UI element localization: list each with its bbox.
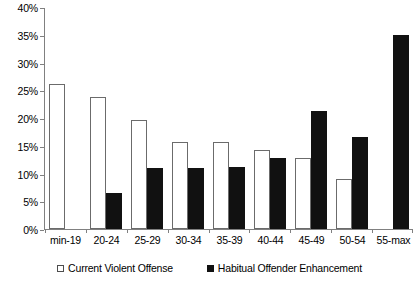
x-axis-tick-label: 40-44 xyxy=(250,234,291,247)
bar xyxy=(106,193,122,229)
x-axis-line xyxy=(44,229,413,230)
y-axis-tick-mark xyxy=(40,119,44,120)
bar xyxy=(295,158,311,229)
x-axis-tick-mark xyxy=(86,229,87,233)
bar xyxy=(213,142,229,229)
bar xyxy=(172,142,188,229)
legend-label: Current Violent Offense xyxy=(68,262,173,275)
x-axis-tick-mark xyxy=(372,229,373,233)
y-axis-tick-mark xyxy=(40,64,44,65)
plot-area: 0%5%10%15%20%25%30%35%40% xyxy=(44,8,413,230)
bar xyxy=(254,150,270,229)
x-axis-labels: min-1920-2425-2930-3435-3940-4445-4950-5… xyxy=(45,234,414,247)
x-axis-tick-mark xyxy=(45,229,46,233)
x-axis-tick-mark xyxy=(290,229,291,233)
x-axis-tick-mark xyxy=(412,229,413,233)
y-axis-tick-label: 10% xyxy=(18,169,38,180)
bar-group xyxy=(331,8,372,229)
bar-group xyxy=(249,8,290,229)
legend-entry-current-violent-offense: Current Violent Offense xyxy=(57,262,173,275)
bar-groups xyxy=(45,8,413,229)
legend-swatch-white-square-icon xyxy=(57,265,64,272)
x-axis-tick-label: min-19 xyxy=(45,234,86,247)
x-axis-tick-label: 20-24 xyxy=(86,234,127,247)
bar xyxy=(270,158,286,229)
y-axis-tick-mark xyxy=(40,230,44,231)
x-axis-tick-mark xyxy=(249,229,250,233)
bar xyxy=(393,35,409,229)
bar xyxy=(131,120,147,229)
y-axis-tick-label: 35% xyxy=(18,30,38,41)
bar-chart: 0%5%10%15%20%25%30%35%40% min-1920-2425-… xyxy=(0,0,419,286)
bar xyxy=(311,111,327,229)
x-axis-tick-label: 35-39 xyxy=(209,234,250,247)
y-axis-tick-label: 30% xyxy=(18,58,38,69)
x-axis-tick-mark xyxy=(168,229,169,233)
x-axis-tick-mark xyxy=(209,229,210,233)
y-axis-tick-label: 25% xyxy=(18,86,38,97)
x-axis-tick-label: 30-34 xyxy=(168,234,209,247)
bar xyxy=(90,97,106,229)
bar xyxy=(49,84,65,229)
x-axis-tick-label: 50-54 xyxy=(332,234,373,247)
bar xyxy=(352,137,368,229)
x-axis-tick-label: 55-max xyxy=(373,234,414,247)
bar xyxy=(147,168,163,229)
y-axis-tick-mark xyxy=(40,202,44,203)
chart-legend: Current Violent Offense Habitual Offende… xyxy=(0,262,419,275)
y-axis-tick-label: 20% xyxy=(18,114,38,125)
legend-swatch-black-square-icon xyxy=(207,265,214,272)
y-axis-tick-mark xyxy=(40,175,44,176)
y-axis-tick-label: 40% xyxy=(18,3,38,14)
bar-group xyxy=(209,8,250,229)
bar-group xyxy=(86,8,127,229)
x-axis-tick-mark xyxy=(127,229,128,233)
y-axis-tick-label: 0% xyxy=(23,225,38,236)
legend-label: Habitual Offender Enhancement xyxy=(218,262,362,275)
y-axis-tick-mark xyxy=(40,8,44,9)
y-axis-tick-mark xyxy=(40,147,44,148)
x-axis-tick-label: 45-49 xyxy=(291,234,332,247)
bar-group xyxy=(290,8,331,229)
y-axis-tick-label: 15% xyxy=(18,141,38,152)
legend-entry-habitual-offender-enhancement: Habitual Offender Enhancement xyxy=(207,262,362,275)
x-axis-tick-label: 25-29 xyxy=(127,234,168,247)
bar-group xyxy=(168,8,209,229)
bar xyxy=(188,168,204,229)
bar-group xyxy=(372,8,413,229)
bar-group xyxy=(127,8,168,229)
bar xyxy=(336,179,352,230)
bar xyxy=(229,167,245,229)
y-axis-tick-mark xyxy=(40,36,44,37)
bar-group xyxy=(45,8,86,229)
x-axis-tick-mark xyxy=(331,229,332,233)
y-axis-tick-label: 5% xyxy=(23,197,38,208)
y-axis-tick-mark xyxy=(40,91,44,92)
